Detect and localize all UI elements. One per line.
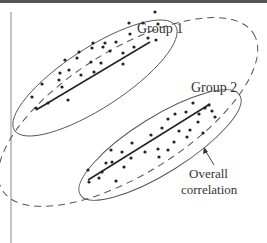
data-point: [191, 101, 194, 104]
data-point: [58, 71, 61, 74]
overall-label-line1: Overall: [189, 166, 228, 181]
data-point: [79, 73, 82, 76]
data-point: [97, 176, 100, 179]
data-point: [75, 56, 78, 59]
data-point: [201, 131, 204, 134]
data-point: [30, 95, 33, 98]
data-point: [67, 68, 70, 71]
data-point: [160, 126, 163, 129]
data-point: [143, 150, 146, 153]
data-point: [156, 147, 159, 150]
data-point: [185, 135, 188, 138]
data-point: [149, 133, 152, 136]
group2-label: Group 2: [191, 80, 237, 95]
data-point: [99, 61, 102, 64]
data-point: [104, 161, 107, 164]
data-point: [172, 140, 175, 143]
data-point: [128, 32, 131, 35]
data-point: [101, 45, 104, 48]
correlation-diagram: Group 1 Group 2 Overall correlation: [0, 0, 267, 243]
data-point: [90, 46, 93, 49]
data-point: [122, 165, 125, 168]
data-point: [210, 109, 213, 112]
data-point: [146, 36, 149, 39]
data-point: [114, 179, 117, 182]
data-point: [184, 110, 187, 113]
data-point: [110, 160, 113, 163]
data-point: [173, 112, 176, 115]
data-point: [46, 101, 49, 104]
data-point: [130, 141, 133, 144]
data-point: [213, 115, 216, 118]
data-point: [207, 103, 210, 106]
data-point: [108, 49, 111, 52]
group1-label: Group 1: [137, 21, 183, 36]
data-point: [40, 82, 43, 85]
data-point: [34, 106, 37, 109]
data-point: [197, 112, 200, 115]
data-point: [63, 58, 66, 61]
overall-correlation-envelope: [0, 0, 267, 243]
data-point: [114, 40, 117, 43]
top-rule: [0, 0, 267, 3]
data-point: [121, 51, 124, 54]
data-point: [203, 106, 206, 109]
data-point: [120, 150, 123, 153]
data-point: [157, 155, 160, 158]
data-point: [103, 41, 106, 44]
data-point: [91, 41, 94, 44]
data-point: [132, 45, 135, 48]
group1-trend-line: [36, 42, 150, 110]
data-point: [121, 62, 124, 65]
data-point: [196, 120, 199, 123]
data-point: [127, 21, 130, 24]
data-point: [129, 156, 132, 159]
data-point: [57, 78, 60, 81]
data-point: [87, 180, 90, 183]
data-point: [153, 10, 156, 13]
data-point: [109, 148, 112, 151]
data-point: [92, 70, 95, 73]
data-point: [177, 129, 180, 132]
data-point: [60, 85, 63, 88]
data-point: [86, 168, 89, 171]
data-point: [100, 170, 103, 173]
data-point: [77, 50, 80, 53]
data-point: [166, 117, 169, 120]
data-point: [89, 60, 92, 63]
overall-label-line2: correlation: [181, 182, 238, 197]
data-point: [66, 98, 69, 101]
data-point: [154, 38, 157, 41]
data-point: [188, 128, 191, 131]
data-point: [166, 148, 169, 151]
